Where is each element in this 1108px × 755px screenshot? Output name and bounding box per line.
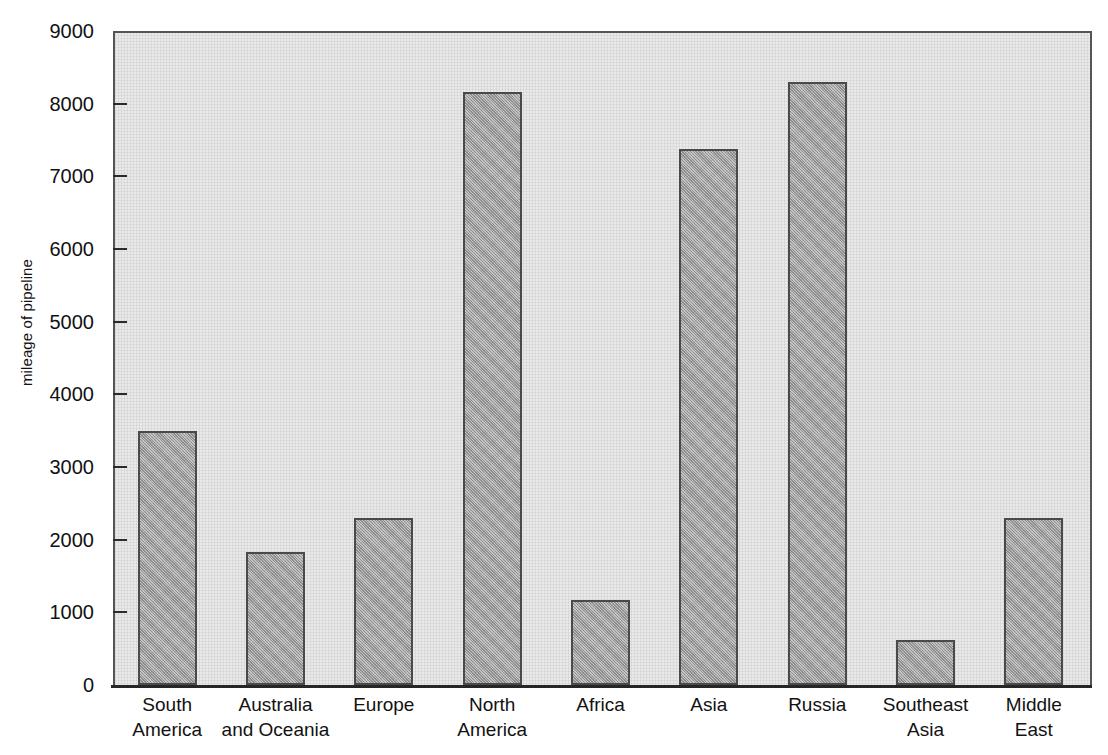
x-axis-tick-label-line1: Russia bbox=[788, 694, 846, 715]
x-axis-tick-label-line1: South bbox=[142, 694, 192, 715]
x-axis-tick-label-line2: America bbox=[438, 717, 546, 742]
bar-southeast-asia[interactable] bbox=[896, 640, 955, 685]
bar-north-america[interactable] bbox=[463, 92, 522, 685]
y-axis-tick-mark bbox=[113, 103, 127, 105]
y-axis-tick-mark bbox=[113, 611, 127, 613]
bar-middle-east[interactable] bbox=[1004, 518, 1063, 685]
x-axis-tick-label-line1: North bbox=[469, 694, 515, 715]
x-axis-tick-label: Russia bbox=[763, 692, 871, 717]
y-axis-tick-label: 6000 bbox=[50, 239, 95, 259]
x-axis-tick-label-line2: and Oceania bbox=[221, 717, 329, 742]
bar-chart: mileage of pipeline 90008000700060005000… bbox=[0, 0, 1108, 755]
y-axis-tick-label: 1000 bbox=[50, 602, 95, 622]
bar-south-america[interactable] bbox=[138, 431, 197, 685]
x-axis-tick-label: Asia bbox=[655, 692, 763, 717]
x-axis-tick-label-line1: Middle bbox=[1006, 694, 1062, 715]
y-axis-tick-label: 5000 bbox=[50, 312, 95, 332]
y-axis-tick-mark bbox=[113, 393, 127, 395]
x-axis-line bbox=[111, 685, 1092, 688]
x-axis-tick-label: Africa bbox=[546, 692, 654, 717]
x-axis-tick-label-line1: Asia bbox=[690, 694, 727, 715]
y-axis-tick-label: 4000 bbox=[50, 384, 95, 404]
x-axis-tick-labels: SouthAmericaAustraliaand OceaniaEuropeNo… bbox=[113, 692, 1088, 755]
x-axis-tick-label: MiddleEast bbox=[980, 692, 1088, 742]
x-axis-tick-label: SouthAmerica bbox=[113, 692, 221, 742]
bar-asia[interactable] bbox=[679, 149, 738, 685]
x-axis-tick-label-line1: Africa bbox=[576, 694, 625, 715]
y-axis-tick-label: 2000 bbox=[50, 530, 95, 550]
x-axis-tick-label-line1: Europe bbox=[353, 694, 414, 715]
x-axis-tick-label-line2: America bbox=[113, 717, 221, 742]
y-axis-tick-mark bbox=[113, 175, 127, 177]
x-axis-tick-label: NorthAmerica bbox=[438, 692, 546, 742]
bar-europe[interactable] bbox=[354, 518, 413, 685]
bar-africa[interactable] bbox=[571, 600, 630, 685]
x-axis-tick-label-line2: East bbox=[980, 717, 1088, 742]
y-axis-tick-mark bbox=[113, 539, 127, 541]
x-axis-tick-label-line1: Australia bbox=[239, 694, 313, 715]
y-axis-tick-label: 9000 bbox=[50, 21, 95, 41]
y-axis-tick-label: 3000 bbox=[50, 457, 95, 477]
x-axis-tick-label: Australiaand Oceania bbox=[221, 692, 329, 742]
x-axis-tick-label-line1: Southeast bbox=[883, 694, 969, 715]
bars-layer bbox=[113, 31, 1088, 685]
y-axis-tick-mark bbox=[113, 321, 127, 323]
y-axis-tick-label: 7000 bbox=[50, 166, 95, 186]
y-axis-tick-label: 8000 bbox=[50, 94, 95, 114]
x-axis-tick-label: Europe bbox=[330, 692, 438, 717]
y-axis-tick-mark bbox=[113, 466, 127, 468]
bar-australia-and-oceania[interactable] bbox=[246, 552, 305, 685]
x-axis-tick-label: SoutheastAsia bbox=[871, 692, 979, 742]
y-axis-tick-labels: 9000800070006000500040003000200010000 bbox=[0, 0, 108, 755]
y-axis-tick-label: 0 bbox=[83, 675, 94, 695]
y-axis-tick-mark bbox=[113, 248, 127, 250]
x-axis-tick-label-line2: Asia bbox=[871, 717, 979, 742]
bar-russia[interactable] bbox=[788, 82, 847, 685]
